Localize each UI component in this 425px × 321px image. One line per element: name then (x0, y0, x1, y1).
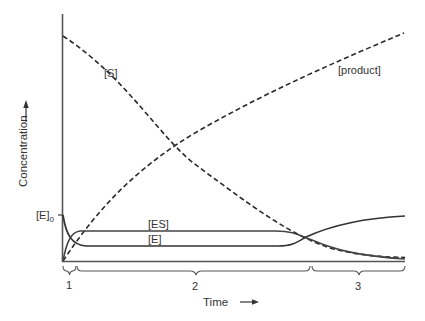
x-axis-arrow-icon (240, 299, 259, 304)
y-axis-label: Concentration (17, 115, 29, 187)
label-substrate: [S] (104, 67, 117, 79)
phase-brace-3 (312, 266, 405, 275)
label-es: [ES] (148, 218, 169, 230)
phase-brace-2 (77, 266, 310, 275)
phase-brace-1 (63, 266, 76, 275)
phase-label-3: 3 (355, 280, 361, 292)
phase-label-2: 2 (192, 280, 198, 292)
e0-tick-label: [E]0 (36, 209, 54, 224)
enzyme-kinetics-chart: [E]0 Concentration [S] [product] [ES] [E… (0, 0, 425, 321)
label-e: [E] (148, 233, 161, 245)
label-product: [product] (338, 64, 381, 76)
phase-label-1: 1 (66, 279, 72, 291)
x-axis-label: Time (203, 296, 228, 308)
